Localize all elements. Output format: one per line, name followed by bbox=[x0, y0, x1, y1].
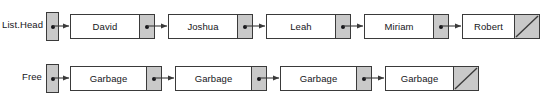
node-data-cell: Garbage bbox=[281, 67, 356, 90]
free-node: Garbage bbox=[70, 66, 162, 91]
node-pointer-cell bbox=[237, 15, 252, 38]
node-value: Miriam bbox=[384, 21, 413, 32]
node-pointer-cell bbox=[356, 67, 371, 90]
list-node: Leah bbox=[266, 14, 351, 39]
node-value: Leah bbox=[290, 21, 312, 32]
free-head-pointer-box bbox=[46, 64, 59, 93]
node-data-cell: David bbox=[71, 15, 139, 38]
list-node: Joshua bbox=[168, 14, 253, 39]
list-node: Miriam bbox=[364, 14, 449, 39]
node-value: Garbage bbox=[300, 73, 338, 84]
free-node: Garbage bbox=[280, 66, 372, 91]
node-pointer-cell bbox=[335, 15, 350, 38]
null-slash-icon bbox=[515, 15, 539, 38]
node-data-cell: Garbage bbox=[176, 67, 251, 90]
list-node-tail: Robert bbox=[462, 14, 540, 39]
pointer-dot-icon bbox=[341, 25, 345, 29]
pointer-dot-icon bbox=[362, 77, 366, 81]
node-data-cell: Robert bbox=[463, 15, 514, 38]
list-head-label: List.Head bbox=[2, 18, 42, 32]
pointer-dot-icon bbox=[51, 77, 55, 81]
pointer-dot-icon bbox=[152, 77, 156, 81]
node-value: Garbage bbox=[401, 73, 439, 84]
list-row: List.Head David Joshua Leah bbox=[0, 0, 498, 52]
pointer-dot-icon bbox=[51, 25, 55, 29]
free-node-tail: Garbage bbox=[385, 66, 479, 91]
node-value: Garbage bbox=[195, 73, 233, 84]
null-pointer-cell bbox=[453, 67, 478, 90]
node-value: David bbox=[93, 21, 118, 32]
free-node: Garbage bbox=[175, 66, 267, 91]
free-label: Free bbox=[2, 70, 42, 84]
pointer-dot-icon bbox=[439, 25, 443, 29]
null-pointer-cell bbox=[514, 15, 539, 38]
node-value: Joshua bbox=[187, 21, 218, 32]
node-value: Robert bbox=[474, 21, 503, 32]
node-pointer-cell bbox=[251, 67, 266, 90]
node-pointer-cell bbox=[433, 15, 448, 38]
null-slash-icon bbox=[454, 67, 478, 90]
pointer-dot-icon bbox=[145, 25, 149, 29]
node-value: Garbage bbox=[90, 73, 128, 84]
list-head-pointer-box bbox=[46, 12, 59, 41]
node-data-cell: Miriam bbox=[365, 15, 433, 38]
node-data-cell: Garbage bbox=[386, 67, 453, 90]
node-pointer-cell bbox=[139, 15, 154, 38]
list-node: David bbox=[70, 14, 155, 39]
node-data-cell: Garbage bbox=[71, 67, 146, 90]
node-data-cell: Joshua bbox=[169, 15, 237, 38]
node-data-cell: Leah bbox=[267, 15, 335, 38]
pointer-dot-icon bbox=[257, 77, 261, 81]
node-pointer-cell bbox=[146, 67, 161, 90]
free-row: Free Garbage Garbage Garbage bbox=[0, 52, 498, 104]
pointer-dot-icon bbox=[243, 25, 247, 29]
